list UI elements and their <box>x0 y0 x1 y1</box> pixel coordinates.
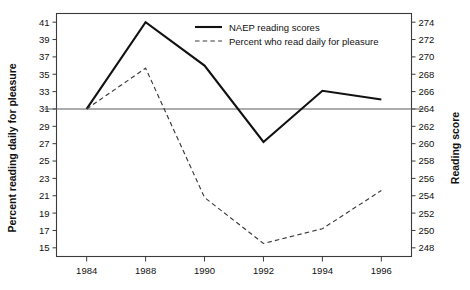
right-axis-ticks: 2482502522542562582602622642662682702722… <box>412 17 435 254</box>
right-tick-label: 250 <box>419 225 435 236</box>
right-tick-label: 262 <box>419 121 435 132</box>
left-tick-label: 37 <box>39 51 50 62</box>
x-tick-label: 1984 <box>76 265 97 276</box>
left-tick-label: 29 <box>39 121 50 132</box>
left-tick-label: 35 <box>39 69 50 80</box>
x-axis-ticks: 198419881990199219941996 <box>76 257 392 276</box>
left-axis-ticks: 1517192123252729313335373941 <box>39 17 57 254</box>
legend-label-naep: NAEP reading scores <box>229 22 320 33</box>
x-tick-label: 1990 <box>194 265 215 276</box>
left-tick-label: 23 <box>39 173 50 184</box>
right-tick-label: 268 <box>419 69 435 80</box>
right-tick-label: 270 <box>419 51 435 62</box>
x-tick-label: 1988 <box>135 265 156 276</box>
right-tick-label: 258 <box>419 155 435 166</box>
right-tick-label: 274 <box>419 17 435 28</box>
legend: NAEP reading scores Percent who read dai… <box>195 22 378 47</box>
left-tick-label: 27 <box>39 138 50 149</box>
left-tick-label: 33 <box>39 86 50 97</box>
left-tick-label: 17 <box>39 225 50 236</box>
left-tick-label: 15 <box>39 242 50 253</box>
left-tick-label: 25 <box>39 155 50 166</box>
x-tick-label: 1992 <box>253 265 274 276</box>
left-axis-title: Percent reading daily for pleasure <box>6 63 18 232</box>
right-tick-label: 252 <box>419 208 435 219</box>
right-tick-label: 254 <box>419 190 435 201</box>
left-tick-label: 19 <box>39 208 50 219</box>
left-tick-label: 21 <box>39 190 50 201</box>
series-line-percent-read-daily <box>87 68 382 243</box>
right-tick-label: 266 <box>419 86 435 97</box>
right-axis-title: Reading score <box>449 112 461 185</box>
right-tick-label: 256 <box>419 173 435 184</box>
left-axis-title-group: Percent reading daily for pleasure <box>6 63 18 232</box>
chart-figure: Percent reading daily for pleasure Readi… <box>0 0 470 290</box>
right-tick-label: 260 <box>419 138 435 149</box>
x-tick-label: 1996 <box>371 265 392 276</box>
left-tick-label: 41 <box>39 17 50 28</box>
right-axis-title-group: Reading score <box>449 112 461 185</box>
x-tick-label: 1994 <box>312 265 333 276</box>
right-tick-label: 248 <box>419 242 435 253</box>
left-tick-label: 39 <box>39 34 50 45</box>
right-tick-label: 272 <box>419 34 435 45</box>
legend-label-percent: Percent who read daily for pleasure <box>229 36 378 47</box>
